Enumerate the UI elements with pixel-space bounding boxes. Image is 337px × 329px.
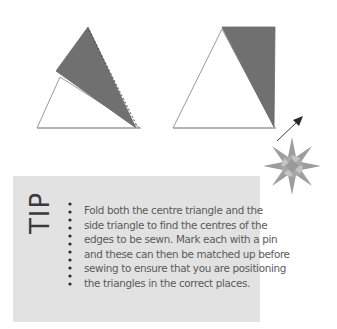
tip-line: and these can then be matched up before [84,247,269,262]
triangle-fold-diagrams [0,0,337,150]
tip-line: edges to be sewn. Mark each with a pin [84,232,269,247]
tip-line: sewing to ensure that you are positionin… [84,261,269,276]
tip-heading: TIP [25,192,55,234]
left-fold-diagram [37,27,141,128]
tip-line: Fold both the centre triangle and the [84,203,269,218]
eight-point-star-icon [262,136,322,196]
right-sewn-diagram [173,27,276,128]
tip-label: TIP [20,183,60,243]
tip-body: Fold both the centre triangle and the si… [84,203,269,291]
tip-line: side triangle to find the centres of the [84,218,269,233]
dotted-divider [66,201,74,287]
tip-line: the triangles in the correct places. [84,276,269,291]
